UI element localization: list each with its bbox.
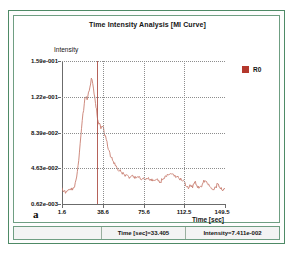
- chart-legend: R0: [242, 66, 261, 73]
- cursor-line[interactable]: [97, 61, 98, 204]
- status-intensity-readout: Intensity=7.411e-002: [185, 227, 279, 239]
- x-tick-label: 1.6: [58, 209, 66, 215]
- chart-title: Time Intensity Analysis [MI Curve]: [14, 21, 281, 28]
- x-tick-mark: [225, 205, 226, 208]
- y-tick-mark: [58, 61, 61, 62]
- y-tick-mark: [58, 97, 61, 98]
- x-tick-mark: [103, 205, 104, 208]
- y-axis-title: Intensity: [54, 46, 78, 53]
- y-tick-mark: [58, 133, 61, 134]
- legend-swatch-icon: [242, 66, 249, 73]
- y-tick-mark: [58, 204, 61, 205]
- x-tick-mark: [184, 205, 185, 208]
- plot-area[interactable]: [62, 61, 225, 204]
- y-tick-label: 1.59e-001: [31, 58, 58, 64]
- status-time-readout: Time [sec]=33.405: [101, 227, 185, 239]
- y-tick-label: 4.63e-002: [31, 165, 58, 171]
- status-bar: Time [sec]=33.405 Intensity=7.411e-002: [13, 226, 280, 240]
- y-tick-label: 8.39e-002: [31, 130, 58, 136]
- gridline-vertical: [184, 61, 185, 204]
- x-tick-label: 75.6: [138, 209, 150, 215]
- chart-panel: Time Intensity Analysis [MI Curve] Inten…: [13, 15, 280, 223]
- y-tick-label: 1.22e-001: [31, 94, 58, 100]
- gridline-vertical: [144, 61, 145, 204]
- y-tick-label: 0.62e-003: [31, 201, 58, 207]
- x-tick-mark: [62, 205, 63, 208]
- gridline-vertical: [103, 61, 104, 204]
- x-tick-label: 149.5: [214, 209, 229, 215]
- application-window: Time Intensity Analysis [MI Curve] Inten…: [8, 10, 285, 244]
- x-tick-mark: [144, 205, 145, 208]
- status-blank-cell: [14, 227, 101, 239]
- panel-label: a: [33, 208, 39, 220]
- x-tick-label: 38.6: [97, 209, 109, 215]
- x-tick-label: 112.5: [177, 209, 192, 215]
- y-tick-mark: [58, 168, 61, 169]
- x-axis-title: Time [sec]: [192, 216, 224, 223]
- legend-item-label: R0: [253, 66, 261, 73]
